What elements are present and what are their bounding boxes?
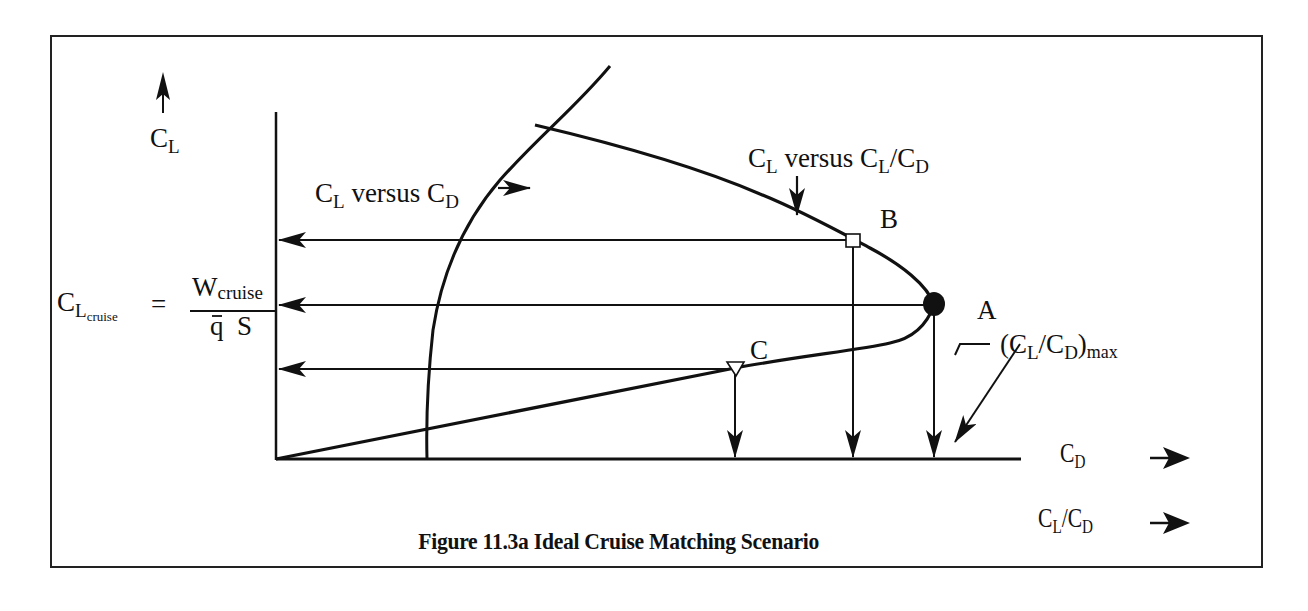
lift-to-drag-label: CL versus CL/CD <box>748 145 929 176</box>
lift-to-drag-label-c: C <box>748 143 766 173</box>
point-a-filled-circle-icon <box>923 292 945 316</box>
equation-equals: = <box>151 291 166 318</box>
point-a-label: A <box>977 297 997 324</box>
y-axis-label: CL <box>150 125 180 156</box>
drag-polar-label-d: D <box>445 191 459 212</box>
lift-to-drag-label-d: D <box>915 156 929 177</box>
equation-lhs-cruise: cruise <box>87 309 118 324</box>
diagram-canvas <box>0 0 1308 611</box>
point-b-square-icon <box>846 234 860 247</box>
x-axis-cd-label-c: C <box>1060 438 1074 468</box>
max-ld-slash: /C <box>1039 329 1065 359</box>
lift-to-drag-label-mid: versus C <box>778 143 879 173</box>
equation-lhs-c: C <box>57 287 75 317</box>
equation-lhs: CLcruise <box>57 289 118 323</box>
max-ld-label: (CL/CD)max <box>1000 331 1118 362</box>
equation-numerator-w: W <box>192 272 217 302</box>
lift-to-drag-label-slash: /C <box>890 143 916 173</box>
y-axis-label-sub: L <box>168 136 180 157</box>
max-ld-sub-d: D <box>1064 342 1078 363</box>
lift-to-drag-label-l: L <box>766 156 778 177</box>
drag-polar-curve <box>427 66 610 459</box>
x-axis-cd-label: CD <box>1060 440 1092 471</box>
point-c-label: C <box>750 337 768 364</box>
x-axis-cd-label-d: D <box>1074 451 1085 472</box>
lift-to-drag-label-l2: L <box>878 156 890 177</box>
equation-numerator: Wcruise <box>192 274 263 302</box>
max-ld-sub-l: L <box>1027 342 1039 363</box>
max-ld-open: (C <box>1000 329 1027 359</box>
equation-numerator-cruise: cruise <box>217 282 262 303</box>
figure-caption-text: Figure 11.3a Ideal Cruise Matching Scena… <box>419 528 820 555</box>
cd-axis-direction-arrow-icon <box>1150 447 1190 469</box>
y-axis-label-main: C <box>150 123 168 153</box>
max-ld-leader-line <box>955 344 990 355</box>
equation-denominator: q S <box>210 313 252 340</box>
point-b-label: B <box>880 206 898 233</box>
drag-polar-label-c: C <box>315 178 333 208</box>
equation-lhs-l: L <box>75 300 87 321</box>
drag-polar-label: CL versus CD <box>315 180 459 211</box>
max-ld-close: ) <box>1078 329 1087 359</box>
drag-polar-label-l: L <box>333 191 345 212</box>
figure-caption: Figure 11.3a Ideal Cruise Matching Scena… <box>0 528 1308 555</box>
y-axis-arrow-icon <box>156 72 170 113</box>
drag-polar-label-mid: versus C <box>345 178 446 208</box>
max-ld-suffix: max <box>1087 342 1118 362</box>
